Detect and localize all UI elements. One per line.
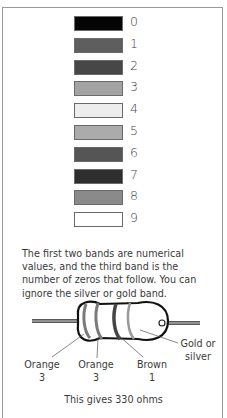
color-swatch	[74, 81, 123, 96]
band-label-3: Brown 1	[132, 359, 172, 384]
swatch-value: 1	[130, 36, 138, 51]
swatch-value: 4	[130, 101, 138, 116]
band-label-2: Orange 3	[76, 359, 116, 384]
swatch-value: 7	[130, 167, 138, 182]
result-caption: This gives 330 ohms	[0, 394, 227, 405]
band-label-1: Orange 3	[22, 359, 62, 384]
color-swatch	[74, 212, 123, 227]
swatch-value: 5	[130, 123, 138, 138]
band-label-4: Gold or silver	[178, 338, 218, 363]
color-swatch	[74, 38, 123, 53]
swatch-value: 9	[130, 210, 138, 225]
color-swatch	[74, 169, 123, 184]
color-swatch	[74, 147, 123, 162]
color-swatch	[74, 60, 123, 75]
swatch-value: 0	[130, 14, 138, 29]
color-swatch	[74, 103, 123, 118]
color-swatch	[74, 16, 123, 31]
swatch-value: 2	[130, 58, 138, 73]
swatch-value: 3	[130, 79, 138, 94]
color-swatch	[74, 190, 123, 205]
swatch-value: 8	[130, 188, 138, 203]
swatch-value: 6	[130, 145, 138, 160]
color-swatch	[74, 125, 123, 140]
